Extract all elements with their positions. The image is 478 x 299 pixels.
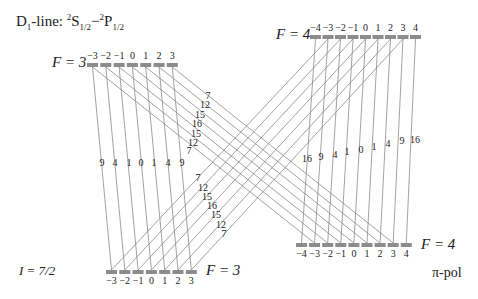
sublevel-bar-top_f3 [87, 63, 98, 67]
title-p-sub: 1/2 [112, 22, 124, 32]
m-label-bottom_f3: 1 [162, 275, 167, 286]
sublevel-bar-top_f3 [140, 63, 151, 67]
sublevel-bar-top_f4 [310, 35, 321, 39]
sublevel-bar-top_f4 [398, 35, 409, 39]
sublevel-bar-bottom_f3 [146, 270, 157, 274]
m-label-bottom_f4: −2 [322, 248, 333, 259]
sublevel-bar-bottom_f4 [348, 243, 359, 247]
m-label-bottom_f4: 2 [378, 248, 383, 259]
strength-f3-f3: 4 [166, 157, 171, 168]
title-s-sub: 1/2 [80, 22, 92, 32]
title-d: D [16, 13, 27, 29]
transition-f4-f4 [341, 39, 353, 243]
m-label-top_f3: 1 [143, 50, 148, 61]
strength-f4-f4: 9 [400, 135, 405, 146]
m-label-top_f4: 3 [401, 22, 406, 33]
m-label-bottom_f4: 0 [351, 248, 356, 259]
sublevel-bar-top_f4 [323, 35, 334, 39]
sublevel-bar-top_f4 [335, 35, 346, 39]
label-top-f4: F = 4 [276, 26, 310, 43]
strength-f4-f4: 16 [410, 134, 420, 145]
sublevel-bar-top_f4 [410, 35, 421, 39]
m-label-bottom_f4: 1 [365, 248, 370, 259]
sublevel-bar-bottom_f4 [362, 243, 373, 247]
m-label-top_f3: −2 [100, 50, 111, 61]
sublevel-bar-bottom_f4 [388, 243, 399, 247]
m-label-bottom_f3: −1 [133, 275, 144, 286]
strength-f4-f4: 0 [359, 144, 364, 155]
transition-f4-f4 [315, 39, 328, 243]
strength-f3-f3: 4 [113, 157, 118, 168]
m-label-top_f4: −3 [323, 22, 334, 33]
sublevel-bar-top_f3 [127, 63, 138, 67]
sublevel-bar-top_f3 [154, 63, 165, 67]
strength-f4-f4: 4 [386, 138, 391, 149]
sublevel-bar-top_f3 [100, 63, 111, 67]
sublevel-bar-bottom_f4 [296, 243, 307, 247]
transition-diagram: −3−2−10123−4−3−2−101234−4−3−2−101234−3−2… [0, 0, 478, 299]
m-label-bottom_f4: 4 [404, 248, 409, 259]
m-label-bottom_f4: −3 [309, 248, 320, 259]
polarization-label: π-pol [432, 265, 462, 281]
transition-f4-f4 [354, 39, 366, 243]
transition-f4-f3 [112, 39, 329, 270]
m-label-top_f4: −4 [310, 22, 321, 33]
diagram-title: D1-line: 2S1/2−2P1/2 [16, 12, 124, 32]
sublevel-bar-bottom_f4 [401, 243, 412, 247]
strength-f4-f3: 7 [222, 228, 227, 239]
sublevel-bar-bottom_f4 [375, 243, 386, 247]
strength-f4-f4: 16 [302, 153, 312, 164]
label-bottom-f3: F = 3 [206, 262, 240, 279]
m-label-top_f4: −2 [335, 22, 346, 33]
sublevel-bar-top_f4 [360, 35, 371, 39]
sublevel-bar-top_f3 [114, 63, 125, 67]
strength-f3-f4: 7 [187, 145, 192, 156]
strength-f4-f4: 1 [372, 141, 377, 152]
transition-f3-f4 [93, 67, 315, 243]
strength-f4-f4: 9 [319, 151, 324, 162]
m-label-bottom_f4: −1 [335, 248, 346, 259]
strength-f3-f3: 9 [100, 157, 105, 168]
sublevel-bar-bottom_f4 [335, 243, 346, 247]
sublevel-bar-top_f4 [385, 35, 396, 39]
m-label-top_f4: 0 [363, 22, 368, 33]
sublevel-bar-top_f3 [167, 63, 178, 67]
title-s: S [71, 13, 79, 29]
m-label-top_f4: −1 [348, 22, 359, 33]
label-top-f3: F = 3 [52, 54, 86, 71]
strength-f4-f4: 1 [345, 146, 350, 157]
m-label-bottom_f4: 3 [391, 248, 396, 259]
sublevel-bar-bottom_f3 [106, 270, 117, 274]
sublevel-bar-bottom_f4 [309, 243, 320, 247]
m-label-bottom_f3: 2 [176, 275, 181, 286]
d1-line-diagram: −3−2−10123−4−3−2−101234−4−3−2−101234−3−2… [0, 0, 478, 299]
nuclear-spin-label: I = 7/2 [19, 263, 55, 279]
m-label-bottom_f3: −2 [119, 275, 130, 286]
sublevel-bar-bottom_f3 [186, 270, 197, 274]
m-label-top_f3: 0 [130, 50, 135, 61]
m-label-bottom_f4: −4 [296, 248, 307, 259]
title-text: -line: [31, 13, 66, 29]
m-label-top_f3: −3 [87, 50, 98, 61]
m-label-top_f3: −1 [114, 50, 125, 61]
transition-f4-f4 [328, 39, 341, 243]
m-label-top_f3: 3 [170, 50, 175, 61]
sublevel-bar-bottom_f3 [173, 270, 184, 274]
sublevel-bar-bottom_f3 [119, 270, 130, 274]
sublevel-bar-bottom_f3 [159, 270, 170, 274]
sublevel-bar-bottom_f4 [322, 243, 333, 247]
m-label-bottom_f3: −3 [106, 275, 117, 286]
transition-lines [93, 39, 416, 270]
m-label-top_f4: 1 [376, 22, 381, 33]
strength-f3-f3: 0 [139, 157, 144, 168]
label-bottom-f4: F = 4 [421, 236, 455, 253]
strength-f3-f3: 1 [152, 157, 157, 168]
strength-f3-f3: 9 [180, 157, 185, 168]
m-label-top_f4: 4 [413, 22, 418, 33]
m-label-bottom_f3: 0 [149, 275, 154, 286]
sublevel-bar-top_f4 [373, 35, 384, 39]
strength-f4-f4: 4 [333, 149, 338, 160]
transition-f4-f4 [302, 39, 316, 243]
m-label-top_f4: 2 [388, 22, 393, 33]
sublevel-bar-bottom_f3 [133, 270, 144, 274]
